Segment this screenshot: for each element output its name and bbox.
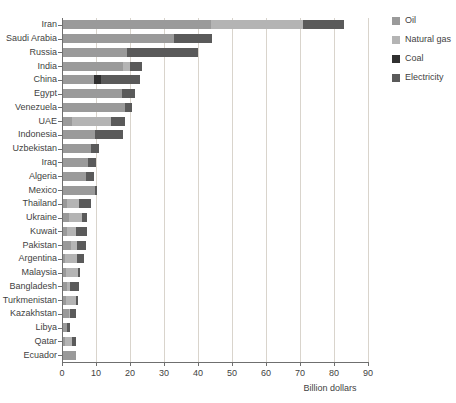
gridline-90 [368,18,369,362]
bar-segment-natural-gas [67,199,79,208]
bar-segment-natural-gas [72,117,111,126]
chart-container: IranSaudi ArabiaRussiaIndiaChinaEgyptVen… [0,0,456,403]
bar-segment-electricity [127,48,198,57]
y-tick [58,341,62,342]
bar-segment-electricity [95,186,97,195]
bar-segment-electricity [77,241,86,250]
y-tick [58,66,62,67]
y-tick [58,300,62,301]
stacked-bar [62,103,132,112]
category-label: Iraq [41,156,57,168]
category-label: Kazakhstan [10,307,57,319]
bar-row: Egypt [62,89,368,98]
x-tick [62,362,63,366]
stacked-bar [62,34,212,43]
chart-legend: OilNatural gasCoalElectricity [392,12,456,88]
bar-segment-electricity [130,62,142,71]
category-label: Turkmenistan [3,294,57,306]
y-tick [58,204,62,205]
legend-item-natural-gas[interactable]: Natural gas [392,31,456,48]
x-tick [96,362,97,366]
bar-segment-electricity [95,130,122,139]
x-tick [368,362,369,366]
category-label: Algeria [29,170,57,182]
category-label: Mexico [28,184,57,196]
y-tick [58,259,62,260]
stacked-bar [62,268,80,277]
bar-row: Thailand [62,199,368,208]
x-tick-label: 80 [329,368,339,379]
stacked-bar [62,144,99,153]
legend-item-oil[interactable]: Oil [392,12,456,29]
bar-segment-oil [62,117,72,126]
bar-row: Qatar [62,337,368,346]
legend-item-coal[interactable]: Coal [392,50,456,67]
bar-segment-oil [62,75,94,84]
bar-segment-oil [62,130,95,139]
bar-segment-natural-gas [123,62,130,71]
bar-segment-oil [62,103,125,112]
bar-segment-electricity [78,268,80,277]
bar-row: Bangladesh [62,282,368,291]
bar-segment-oil [62,34,174,43]
legend-label: Coal [405,53,424,64]
category-label: UAE [38,115,57,127]
stacked-bar [62,309,76,318]
stacked-bar [62,323,70,332]
y-tick [58,162,62,163]
legend-swatch-icon [392,17,400,25]
plot-area: IranSaudi ArabiaRussiaIndiaChinaEgyptVen… [62,18,368,362]
legend-swatch-icon [392,55,400,63]
category-label: Ukraine [26,211,57,223]
bar-segment-electricity [174,34,211,43]
x-tick [232,362,233,366]
y-tick [58,314,62,315]
bar-row: Pakistan [62,241,368,250]
stacked-bar [62,186,97,195]
stacked-bar [62,254,84,263]
x-tick [334,362,335,366]
category-label: Ecuador [23,349,57,361]
bar-segment-oil [62,186,95,195]
y-tick [58,39,62,40]
bar-row: Libya [62,323,368,332]
y-tick [58,355,62,356]
bar-row: Iran [62,20,368,29]
category-label: Iran [41,18,57,30]
stacked-bar [62,75,140,84]
bar-segment-electricity [79,199,91,208]
bar-segment-natural-gas [71,241,78,250]
category-label: Argentina [18,252,57,264]
bar-row: Kazakhstan [62,309,368,318]
stacked-bar [62,351,76,360]
stacked-bar [62,62,142,71]
bar-segment-oil [62,62,123,71]
bar-segment-electricity [76,296,78,305]
stacked-bar [62,158,96,167]
bar-segment-electricity [70,282,79,291]
bar-segment-oil [62,351,76,360]
category-label: Pakistan [22,239,57,251]
x-tick [198,362,199,366]
category-label: Qatar [34,335,57,347]
bar-segment-oil [62,20,211,29]
stacked-bar [62,117,125,126]
category-label: Kuwait [30,225,57,237]
legend-label: Natural gas [405,34,451,45]
legend-item-electricity[interactable]: Electricity [392,69,456,86]
category-label: India [37,60,57,72]
x-tick [266,362,267,366]
stacked-bar [62,130,123,139]
x-tick-label: 60 [261,368,271,379]
y-tick [58,94,62,95]
bar-row: Venezuela [62,103,368,112]
bar-row: Ecuador [62,351,368,360]
bar-segment-natural-gas [211,20,303,29]
stacked-bar [62,89,135,98]
stacked-bar [62,282,79,291]
bar-segment-natural-gas [65,337,72,346]
bar-segment-electricity [101,75,140,84]
bar-segment-oil [62,213,69,222]
stacked-bar [62,337,76,346]
bar-row: Saudi Arabia [62,34,368,43]
